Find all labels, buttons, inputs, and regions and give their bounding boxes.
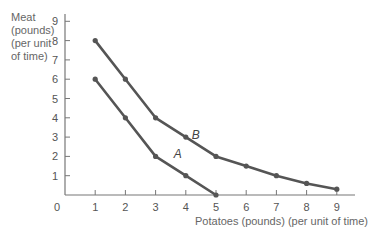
y-tick-label: 6 [52, 73, 58, 85]
x-tick-label: 7 [273, 201, 279, 213]
x-tick-label: 9 [334, 201, 340, 213]
y-tick-label: 5 [52, 93, 58, 105]
data-point [213, 192, 218, 197]
curve-label-B: B [192, 128, 200, 142]
y-tick-label: 9 [52, 15, 58, 27]
data-point [153, 115, 158, 120]
data-point [244, 163, 249, 168]
y-tick-label: 7 [52, 54, 58, 66]
data-point [93, 77, 98, 82]
data-point [213, 154, 218, 159]
chart-plot: 1234567891234567890AB [0, 0, 369, 232]
data-point [334, 187, 339, 192]
y-tick-label: 1 [52, 170, 58, 182]
data-point [153, 154, 158, 159]
y-tick-label: 2 [52, 150, 58, 162]
y-tick-label: 8 [52, 35, 58, 47]
data-point [93, 38, 98, 43]
y-tick-label: 4 [52, 112, 58, 124]
data-point [304, 181, 309, 186]
x-tick-label: 1 [92, 201, 98, 213]
data-point [183, 135, 188, 140]
origin-label: 0 [54, 201, 60, 213]
x-tick-label: 5 [213, 201, 219, 213]
data-point [274, 173, 279, 178]
data-point [123, 115, 128, 120]
x-tick-label: 6 [243, 201, 249, 213]
data-point [183, 173, 188, 178]
series-B-line [95, 41, 337, 190]
x-tick-label: 4 [183, 201, 189, 213]
x-tick-label: 8 [304, 201, 310, 213]
x-tick-label: 3 [153, 201, 159, 213]
x-tick-label: 2 [122, 201, 128, 213]
data-point [123, 77, 128, 82]
y-tick-label: 3 [52, 131, 58, 143]
curve-label-A: A [173, 147, 182, 161]
